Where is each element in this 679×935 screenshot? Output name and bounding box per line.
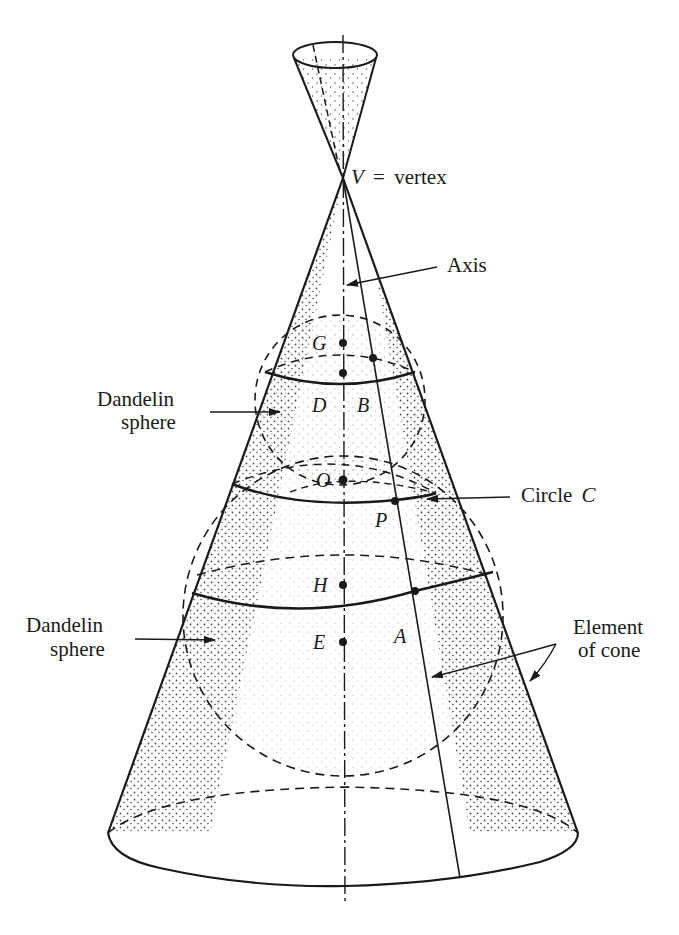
point-h [339,581,347,589]
vertex-label: V = vertex [351,165,447,189]
label-a: A [392,625,407,647]
point-a [411,587,419,595]
lower-sphere-arrow [135,639,215,640]
dandelin-spheres-diagram: G D B O P H E A V = vertex Axis Dandelin… [0,0,679,935]
label-g: G [312,332,327,354]
upper-sphere-label-line2: sphere [121,410,176,434]
label-h: H [312,574,329,596]
point-g [339,339,347,347]
circle-c-label: Circle C [521,483,597,507]
label-e: E [312,631,325,653]
element-label-line1: Element [573,615,643,639]
point-b [369,354,377,362]
label-p: P [374,509,387,531]
upper-sphere-label-line1: Dandelin [97,387,174,411]
label-d: D [311,394,327,416]
point-e [339,638,347,646]
axis-arrow [347,267,437,285]
lower-sphere-label-line1: Dandelin [26,613,103,637]
point-p [391,497,399,505]
lower-sphere-label-line2: sphere [50,637,105,661]
upper-nappe [293,42,377,178]
element-label-line2: of cone [578,638,640,662]
label-b: B [357,394,369,416]
point-d [339,369,347,377]
axis-label: Axis [447,253,487,277]
point-o [339,476,348,485]
label-o: O [316,469,330,491]
